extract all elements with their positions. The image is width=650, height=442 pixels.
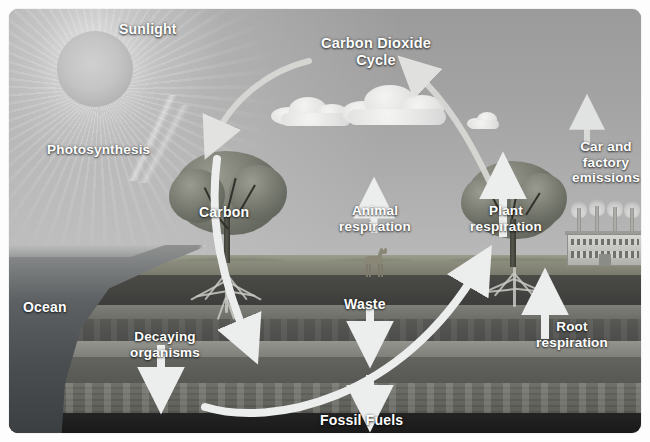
tree-trunk [224,213,230,263]
illustration-plate: Sunlight Photosynthesis Carbon Dioxide C… [9,9,641,433]
label-animal-respiration: Animal respiration [325,203,425,234]
smokestack [595,206,599,234]
label-plant-respiration: Plant respiration [461,203,551,234]
label-co2-cycle: Carbon Dioxide Cycle [311,35,441,68]
stratum-shale-texture [9,383,641,413]
deer-icon [360,250,390,278]
label-root-respiration: Root respiration [517,319,627,350]
label-waste: Waste [344,296,386,312]
label-fossil-fuels: Fossil Fuels [320,412,403,428]
label-car-factory-emissions: Car and factory emissions [563,139,641,186]
stratum-soil-lower [9,357,641,383]
carbon-tree-roots [177,267,287,337]
label-sunlight: Sunlight [119,21,177,37]
label-carbon: Carbon [199,204,249,220]
factory-icon [567,222,641,266]
carbon-cycle-diagram: Sunlight Photosynthesis Carbon Dioxide C… [0,0,650,442]
label-decaying-organisms: Decaying organisms [115,329,215,360]
label-ocean: Ocean [23,299,67,315]
label-photosynthesis: Photosynthesis [47,142,150,158]
smokestack [613,207,617,234]
